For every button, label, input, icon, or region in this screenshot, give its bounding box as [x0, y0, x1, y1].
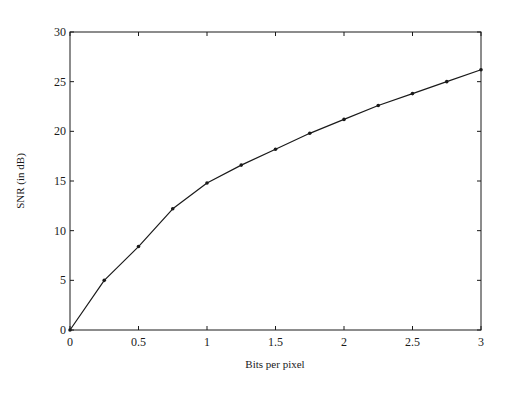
data-point-marker: [68, 328, 72, 332]
y-axis: 051015202530: [54, 25, 481, 337]
x-tick-label: 0: [67, 335, 73, 349]
x-tick-label: 3: [478, 335, 484, 349]
x-tick-label: 1: [204, 335, 210, 349]
x-tick-label: 0.5: [131, 335, 146, 349]
data-point-marker: [102, 279, 106, 283]
x-tick-label: 1.5: [268, 335, 283, 349]
data-point-marker: [171, 207, 175, 211]
x-axis: 00.511.522.53: [67, 32, 484, 349]
data-point-marker: [308, 132, 312, 136]
plot-area: [70, 32, 481, 330]
data-point-marker: [205, 181, 209, 185]
y-axis-label: SNR (in dB): [14, 153, 27, 209]
y-tick-label: 5: [60, 273, 66, 287]
data-point-marker: [376, 104, 380, 108]
y-tick-label: 0: [60, 323, 66, 337]
y-tick-label: 15: [54, 174, 66, 188]
data-point-marker: [137, 245, 141, 249]
line-chart: 00.511.522.53 051015202530 Bits per pixe…: [0, 0, 505, 395]
y-tick-label: 10: [54, 224, 66, 238]
data-point-marker: [479, 68, 483, 72]
x-tick-label: 2: [341, 335, 347, 349]
data-point-marker: [239, 163, 243, 167]
data-point-marker: [274, 147, 278, 151]
y-tick-label: 30: [54, 25, 66, 39]
data-series: [68, 68, 483, 332]
data-point-marker: [342, 118, 346, 122]
x-tick-label: 2.5: [405, 335, 420, 349]
data-point-marker: [445, 80, 449, 84]
x-axis-label: Bits per pixel: [245, 358, 304, 370]
data-point-marker: [411, 92, 415, 96]
y-tick-label: 20: [54, 124, 66, 138]
series-line: [70, 70, 481, 330]
y-tick-label: 25: [54, 75, 66, 89]
plot-frame: [70, 32, 481, 330]
